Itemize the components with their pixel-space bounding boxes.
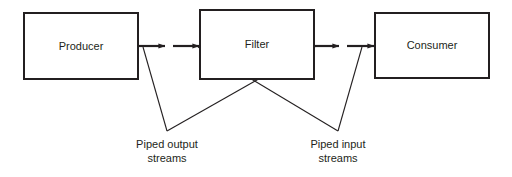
piped-input-label-line2: streams xyxy=(318,152,358,164)
leader-line-input-right xyxy=(338,47,362,131)
piped-output-label-line1: Piped output xyxy=(136,138,198,150)
piped-output-label-line2: streams xyxy=(147,152,187,164)
filter-label: Filter xyxy=(245,38,270,50)
node-filter[interactable]: Filter xyxy=(200,10,314,79)
diagram-canvas: Producer Filter Consumer Piped output st… xyxy=(0,0,512,177)
annotation-piped-input: Piped input streams xyxy=(310,138,365,164)
node-producer[interactable]: Producer xyxy=(24,13,138,79)
pipe-stream-diagram: Producer Filter Consumer Piped output st… xyxy=(0,0,512,177)
consumer-label: Consumer xyxy=(407,39,458,51)
annotation-piped-output: Piped output streams xyxy=(136,138,198,164)
piped-input-label-line1: Piped input xyxy=(310,138,365,150)
producer-label: Producer xyxy=(59,40,104,52)
node-consumer[interactable]: Consumer xyxy=(375,13,489,78)
leader-line-output-left xyxy=(143,47,167,131)
